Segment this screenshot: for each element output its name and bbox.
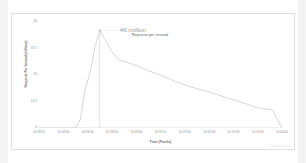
chart-figure: Requests Per Second (millions) 5037.5251…	[12, 14, 296, 151]
annotation-value-label: 46 million	[120, 26, 220, 33]
x-axis-tick-label: 10:19:10	[154, 130, 166, 134]
page-gutter-right	[298, 0, 306, 163]
x-axis-tick-label: 10:19:00	[130, 130, 142, 134]
x-axis-title: Time (Pacific)	[39, 140, 282, 145]
chart-card: Requests Per Second (millions) 5037.5251…	[11, 13, 295, 150]
peak-marker-dot	[99, 29, 101, 31]
annotation-sublabel: Requests per second	[120, 33, 220, 38]
x-axis-tick-label: 10:19:40	[227, 130, 239, 134]
x-axis-tick-label: 10:19:50	[252, 130, 264, 134]
data-series-line	[39, 30, 282, 128]
y-axis-tick-label: 37.5	[19, 47, 37, 50]
x-axis-tick-label: 10:18:30	[57, 130, 69, 134]
page-gutter-left	[0, 0, 8, 163]
peak-annotation: 46 million Requests per second	[120, 26, 220, 38]
x-axis-tick-label: 10:18:40	[82, 130, 94, 134]
x-axis-tick-label: 10:20:00	[276, 130, 288, 134]
y-axis-tick-label: 25	[19, 73, 37, 76]
x-axis-tick-label: 10:18:20	[33, 130, 45, 134]
x-axis-tick-label: 10:19:20	[179, 130, 191, 134]
y-axis-tick-label: 12.5	[19, 100, 37, 103]
watermark-label: Google Cloud	[270, 144, 290, 148]
x-axis-tick-label: 10:18:50	[106, 130, 118, 134]
screenshot-root: Requests Per Second (millions) 5037.5251…	[0, 0, 306, 163]
x-axis-tick-label: 10:19:30	[203, 130, 215, 134]
x-axis-tick-labels: 10:18:2010:18:3010:18:4010:18:5010:19:00…	[39, 130, 282, 139]
y-axis-tick-label: 50	[19, 20, 37, 23]
